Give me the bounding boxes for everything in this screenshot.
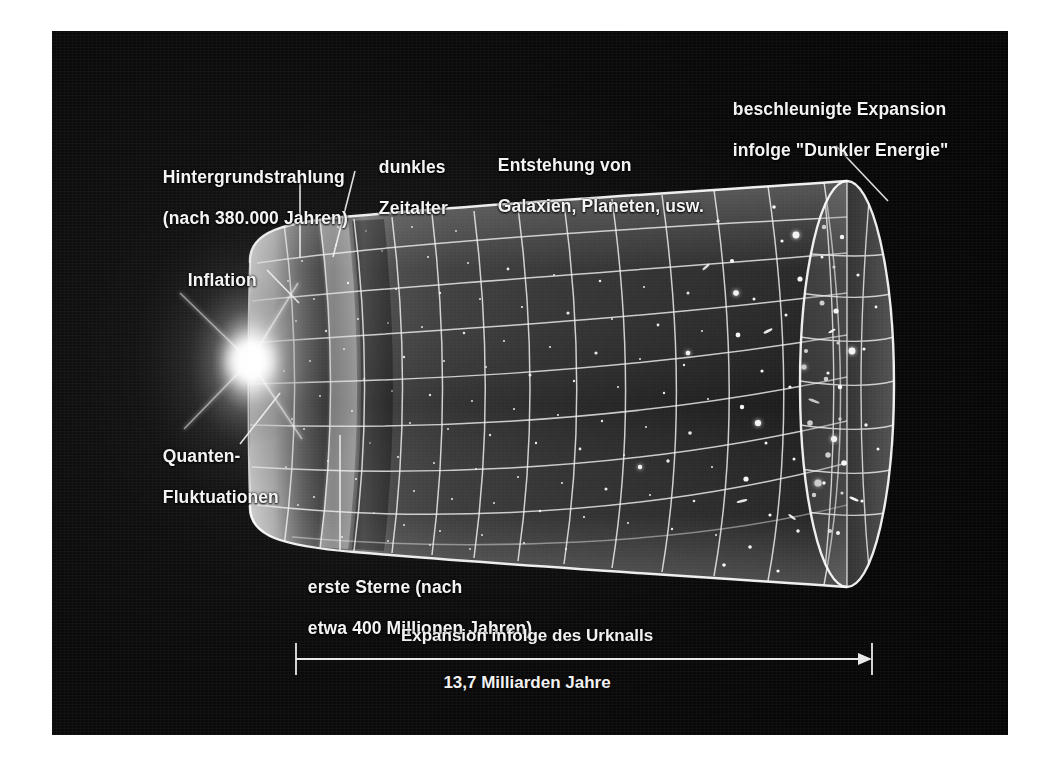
- axis-caption-top: Expansion infolge des Urknalls: [0, 626, 1054, 646]
- figure-stage: Hintergrundstrahlung (nach 380.000 Jahre…: [0, 0, 1054, 770]
- expansion-timeline-arrow: [296, 643, 872, 675]
- cone-end-cap: [800, 181, 894, 587]
- axis-caption-bottom: 13,7 Milliarden Jahre: [0, 673, 1054, 693]
